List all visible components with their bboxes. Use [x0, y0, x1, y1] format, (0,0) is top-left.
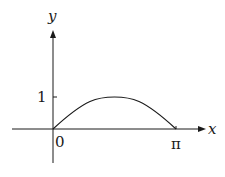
x-tick-label-pi: π — [171, 135, 181, 153]
sine-chart: y x 1 0 π — [0, 0, 225, 177]
y-axis-arrow-icon — [50, 30, 56, 38]
x-axis-arrow-icon — [198, 126, 206, 132]
origin-label: 0 — [55, 133, 65, 151]
y-tick-label-1: 1 — [37, 88, 47, 106]
sine-curve — [53, 97, 176, 129]
y-axis-label: y — [47, 7, 57, 25]
x-axis-label: x — [208, 120, 217, 138]
